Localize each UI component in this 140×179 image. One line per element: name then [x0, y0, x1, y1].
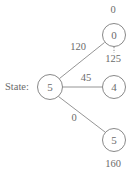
value-above-top-node: 0 — [110, 5, 115, 16]
node-child-top-text: 0 — [111, 30, 117, 41]
edge-root-to-bottom — [59, 97, 106, 133]
edge-label-middle: 45 — [81, 73, 92, 84]
node-child-middle-text: 4 — [111, 82, 117, 93]
state-transition-diagram: State: 5 0 4 5 120 45 0 0 125 160 — [0, 0, 140, 179]
edge-group — [59, 43, 106, 133]
edge-label-bottom: 0 — [71, 113, 76, 124]
node-child-bottom-text: 5 — [111, 135, 117, 146]
value-below-top-node: 125 — [105, 54, 121, 65]
node-root-text: 5 — [47, 82, 53, 93]
value-below-bottom-node: 160 — [105, 159, 121, 170]
state-prefix-label: State: — [5, 82, 29, 93]
edge-label-top: 120 — [70, 42, 86, 53]
